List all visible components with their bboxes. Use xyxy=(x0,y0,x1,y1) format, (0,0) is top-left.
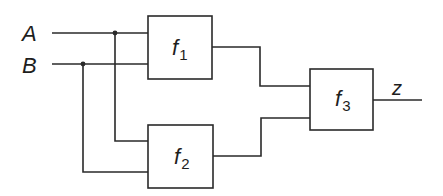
wire-f2-to-f3 xyxy=(213,118,310,156)
output-label-z: z xyxy=(391,77,402,99)
input-label-b: B xyxy=(22,53,37,78)
logic-diagram: A B f1 f2 f3 z xyxy=(0,0,443,196)
wire-f1-to-f3 xyxy=(212,47,310,86)
wire-a-to-f2 xyxy=(115,33,148,141)
input-label-a: A xyxy=(20,21,37,46)
